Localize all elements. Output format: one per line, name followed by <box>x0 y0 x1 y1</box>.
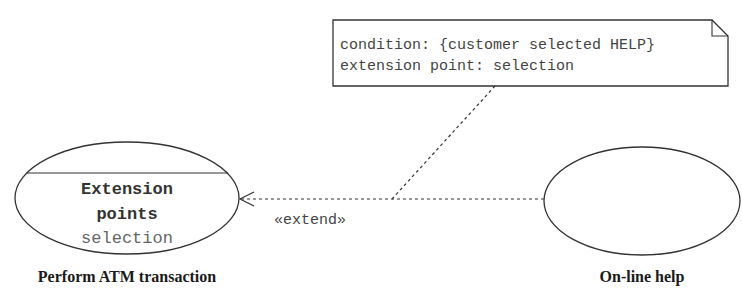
use-case-label-online-help: On-line help <box>600 268 685 286</box>
condition-note[interactable]: condition: {customer selected HELP} exte… <box>333 20 728 86</box>
extension-points-heading-line2: points <box>96 205 157 224</box>
extension-point-selection: selection <box>81 229 173 248</box>
extend-stereotype-label: «extend» <box>274 212 346 229</box>
use-case-diagram: condition: {customer selected HELP} exte… <box>0 0 742 307</box>
use-case-perform-atm-transaction[interactable]: Extension points selection <box>15 142 239 254</box>
note-condition-text: condition: {customer selected HELP} <box>340 37 655 54</box>
extend-relationship[interactable]: «extend» <box>240 192 544 229</box>
note-anchor-line <box>392 86 495 199</box>
use-case-label-perform-atm-transaction: Perform ATM transaction <box>38 268 216 285</box>
use-case-online-help[interactable] <box>544 147 740 255</box>
extension-points-heading-line1: Extension <box>81 180 173 199</box>
note-extension-point-text: extension point: selection <box>340 58 574 75</box>
